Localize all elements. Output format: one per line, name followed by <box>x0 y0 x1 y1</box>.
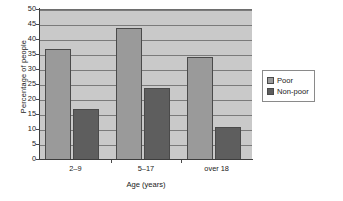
gridline <box>40 85 252 86</box>
legend-item[interactable]: Poor <box>267 75 309 86</box>
gridline <box>40 40 252 41</box>
chart-legend: PoorNon-poor <box>262 70 315 102</box>
y-axis-tick-label: 40 <box>20 35 36 42</box>
legend-swatch-icon <box>267 77 274 84</box>
x-axis-tick-mark <box>181 160 182 163</box>
bar-chart: Percentage of people 0510152025303540455… <box>0 0 343 201</box>
y-axis-tick-mark <box>36 54 40 55</box>
bar-non-poor-1 <box>144 88 170 160</box>
gridline <box>40 70 252 71</box>
gridline <box>40 10 252 11</box>
legend-swatch-icon <box>267 88 274 95</box>
y-axis-tick-label: 35 <box>20 50 36 57</box>
y-axis-tick-label: 0 <box>20 155 36 162</box>
y-axis-tick-labels: 05101520253035404550 <box>20 9 36 159</box>
x-axis-tick-label: 2–9 <box>40 164 111 173</box>
y-axis-tick-label: 30 <box>20 65 36 72</box>
y-axis-tick-mark <box>36 24 40 25</box>
bar-poor-2 <box>187 57 213 161</box>
y-axis-tick-mark <box>36 129 40 130</box>
y-axis-tick-label: 25 <box>20 80 36 87</box>
legend-item-label: Poor <box>277 76 293 85</box>
x-axis-tick-label: over 18 <box>181 164 252 173</box>
bar-poor-0 <box>45 49 71 160</box>
y-axis-tick-label: 10 <box>20 125 36 132</box>
y-axis-tick-mark <box>36 9 40 10</box>
bar-non-poor-0 <box>73 109 99 160</box>
y-axis-tick-mark <box>36 39 40 40</box>
gridline <box>40 55 252 56</box>
x-axis-line <box>36 159 253 160</box>
y-axis-tick-mark <box>36 69 40 70</box>
y-axis-tick-label: 15 <box>20 110 36 117</box>
y-axis-tick-label: 50 <box>20 5 36 12</box>
y-axis-tick-mark <box>36 144 40 145</box>
x-axis-title: Age (years) <box>40 180 252 189</box>
plot-area <box>40 9 252 160</box>
y-axis-tick-mark <box>36 99 40 100</box>
y-axis-tick-mark <box>36 114 40 115</box>
gridline <box>40 25 252 26</box>
legend-item-label: Non-poor <box>277 87 309 96</box>
legend-item[interactable]: Non-poor <box>267 86 309 97</box>
y-axis-tick-mark <box>36 84 40 85</box>
y-axis-tick-label: 45 <box>20 20 36 27</box>
x-axis-tick-label: 5–17 <box>111 164 182 173</box>
bar-non-poor-2 <box>215 127 241 160</box>
bar-poor-1 <box>116 28 142 160</box>
y-axis-tick-label: 20 <box>20 95 36 102</box>
x-axis-tick-mark <box>111 160 112 163</box>
y-axis-tick-label: 5 <box>20 140 36 147</box>
y-axis-tick-mark <box>36 159 40 160</box>
